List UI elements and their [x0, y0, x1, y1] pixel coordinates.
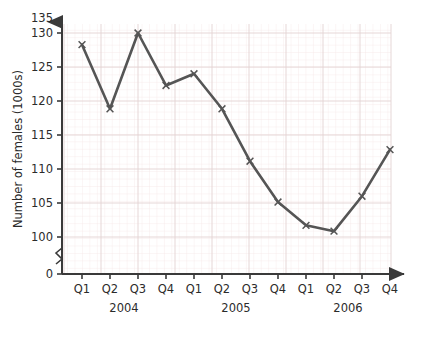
y-axis-title: Number of females (1000s)	[11, 70, 25, 228]
group-label-2005: 2005	[221, 301, 250, 315]
line-chart: 0 100 105 110 115 120 125 130 135 Number…	[0, 0, 423, 338]
x-tick-label-7: Q4	[270, 282, 286, 296]
y-tick-label-125: 125	[31, 60, 53, 74]
x-tick-label-4: Q1	[186, 282, 202, 296]
x-tick-label-9: Q2	[326, 282, 342, 296]
x-tick-label-8: Q1	[298, 282, 314, 296]
x-tick-label-1: Q2	[102, 282, 118, 296]
x-tick-label-10: Q3	[354, 282, 370, 296]
y-tick-label-100: 100	[31, 230, 53, 244]
group-label-2006: 2006	[333, 301, 362, 315]
y-tick-label-120: 120	[31, 94, 53, 108]
x-tick-label-3: Q4	[158, 282, 174, 296]
y-tick-label-105: 105	[31, 196, 53, 210]
x-tick-label-0: Q1	[74, 282, 90, 296]
x-tick-label-2: Q3	[130, 282, 146, 296]
y-tick-label-110: 110	[31, 162, 53, 176]
x-tick-label-6: Q3	[242, 282, 258, 296]
chart-canvas: 0 100 105 110 115 120 125 130 135 Number…	[0, 0, 423, 338]
y-tick-label-130: 130	[31, 26, 53, 40]
x-tick-label-5: Q2	[214, 282, 230, 296]
y-tick-label-135: 135	[31, 11, 53, 25]
y-tick-label-0: 0	[46, 267, 53, 281]
plot-grid	[64, 24, 391, 274]
x-tick-label-11: Q4	[382, 282, 398, 296]
group-label-2004: 2004	[109, 301, 138, 315]
y-tick-label-115: 115	[31, 128, 53, 142]
